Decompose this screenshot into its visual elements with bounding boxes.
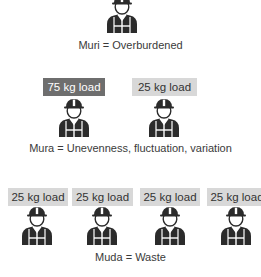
load-label-25kg: 25 kg load [8, 188, 68, 206]
worker-icon [218, 205, 254, 245]
load-label-25kg: 25 kg load [132, 78, 197, 96]
load-label-25kg: 25 kg load [207, 188, 261, 206]
muda-caption: Muda = Waste [0, 251, 261, 263]
load-label-75kg: 75 kg load [43, 78, 105, 96]
worker-icon [152, 205, 188, 245]
load-label-25kg: 25 kg load [72, 188, 133, 206]
worker-icon [84, 205, 120, 245]
worker-icon [19, 205, 55, 245]
muri-caption: Muri = Overburdened [0, 39, 261, 51]
mura-caption: Mura = Unevenness, fluctuation, variatio… [0, 142, 261, 154]
worker-icon [56, 97, 92, 137]
load-label-25kg: 25 kg load [140, 188, 200, 206]
worker-icon [146, 97, 182, 137]
worker-icon [104, 0, 140, 33]
